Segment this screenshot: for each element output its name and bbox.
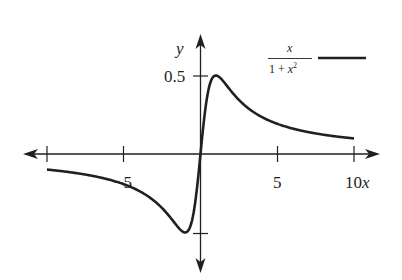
x-axis-label: x (361, 173, 370, 192)
x-tick-label-10: 10 (345, 173, 362, 192)
legend-denominator: 1 + x2 (269, 61, 297, 76)
legend-numerator: x (286, 41, 293, 55)
y-axis-label: y (174, 39, 184, 58)
x-tick-label-5: 5 (273, 173, 282, 192)
function-plot: −5 5 10 x 0.5 y x 1 + x2 (0, 0, 402, 280)
y-tick-label-half: 0.5 (164, 67, 185, 86)
legend: x 1 + x2 (268, 41, 366, 76)
